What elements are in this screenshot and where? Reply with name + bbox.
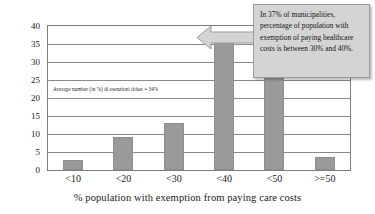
bar[interactable] [315,157,335,170]
y-axis-tick-label: 30 [31,58,40,67]
y-axis-tick-label: 15 [31,112,40,121]
x-axis-tick-label: <50 [249,173,299,184]
x-axis-ticks: <10<20<30<40<50>=50 [48,173,350,184]
bar[interactable] [113,137,133,170]
y-axis-tick-label: 20 [31,94,40,103]
callout-arrow-icon [196,24,256,51]
y-axis-tick-label: 5 [36,148,41,157]
average-annotation: Average number (in %) di esenzioni ticke… [53,86,158,92]
bar[interactable] [214,39,234,170]
bar-slot [98,26,148,170]
y-axis-ticks: 0510152025303540 [0,25,44,171]
x-axis-tick-label: <10 [48,173,98,184]
x-axis-tick-label: <20 [98,173,148,184]
x-axis-title: % population with exemption from paying … [0,192,375,203]
x-axis-tick-label: <30 [149,173,199,184]
bar-slot [48,26,98,170]
bar-slot [149,26,199,170]
bar[interactable] [63,160,83,170]
x-axis-tick-label: <40 [199,173,249,184]
y-axis-tick-label: 25 [31,76,40,85]
bar-chart: Percent 0510152025303540 Average number … [0,0,375,214]
y-axis-tick-label: 10 [31,130,40,139]
y-axis-tick-label: 40 [31,22,40,31]
x-axis-tick-label: >=50 [300,173,350,184]
callout-box: In 37% of municipalities, percentage of … [253,4,370,78]
y-axis-tick-label: 35 [31,40,40,49]
bar[interactable] [164,123,184,170]
y-axis-tick-label: 0 [36,166,41,175]
